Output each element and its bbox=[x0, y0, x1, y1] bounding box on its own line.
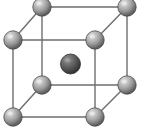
atom-sphere bbox=[4, 31, 22, 49]
atom-corner-front-bottom-right bbox=[86, 108, 104, 126]
atom-corner-front-bottom-left bbox=[4, 108, 22, 126]
unit-cell-diagram bbox=[0, 0, 144, 134]
atom-specular-highlight bbox=[36, 1, 42, 5]
atom-sphere bbox=[86, 31, 104, 49]
atom-corner-back-bottom-left bbox=[33, 76, 51, 94]
atom-specular-highlight bbox=[36, 79, 42, 83]
atom-sphere bbox=[86, 108, 104, 126]
atom-sphere bbox=[118, 76, 136, 94]
lattice-figure bbox=[0, 0, 144, 134]
atom-specular-highlight bbox=[65, 58, 71, 62]
atom-specular-highlight bbox=[89, 111, 95, 115]
atom-sphere bbox=[61, 54, 81, 74]
atom-specular-highlight bbox=[7, 111, 13, 115]
atom-corner-front-top-right bbox=[86, 31, 104, 49]
atom-center-body bbox=[61, 54, 81, 74]
atom-specular-highlight bbox=[7, 34, 13, 38]
atom-sphere bbox=[118, 0, 136, 16]
atom-specular-highlight bbox=[121, 1, 127, 5]
atom-sphere bbox=[33, 76, 51, 94]
atom-specular-highlight bbox=[89, 34, 95, 38]
atom-corner-back-top-left bbox=[33, 0, 51, 16]
atom-sphere bbox=[33, 0, 51, 16]
atom-corner-back-top-right bbox=[118, 0, 136, 16]
atom-sphere bbox=[4, 108, 22, 126]
atom-corner-front-top-left bbox=[4, 31, 22, 49]
atom-specular-highlight bbox=[121, 79, 127, 83]
atom-corner-back-bottom-right bbox=[118, 76, 136, 94]
